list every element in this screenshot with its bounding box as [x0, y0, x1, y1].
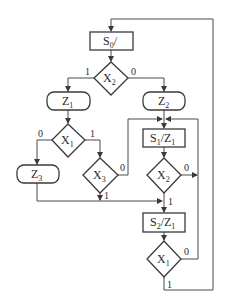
- cond-output-z1: Z1: [47, 92, 90, 110]
- decision-x2-mid: X2 0 1: [147, 158, 189, 207]
- x1-0-to-z3-line: [37, 140, 52, 164]
- x1-bottom-label-0: 0: [184, 246, 189, 257]
- x1-bottom-label-1: 1: [167, 279, 172, 290]
- cond-output-z3: Z3: [17, 165, 59, 183]
- decision-x1-bottom: X1 0 1: [147, 241, 189, 290]
- state-s1: S1/Z1: [143, 129, 185, 147]
- x3-label-0: 0: [120, 162, 125, 173]
- x2-mid-label-0: 0: [184, 162, 189, 173]
- x1-1-to-x3-line: [85, 140, 100, 157]
- s0-name: S: [103, 34, 110, 48]
- cond-output-z2: Z2: [143, 92, 185, 110]
- x2-mid-label-1: 1: [168, 196, 173, 207]
- asm-flowchart: S0/ X2 1 0 Z1 Z2 X1 0 1 Z3 X3 0 1 S1/Z1: [0, 0, 226, 308]
- x2-top-label-1: 1: [85, 66, 90, 77]
- state-s2: S2/Z1: [143, 213, 185, 232]
- x2-0-to-z2-line: [128, 78, 164, 91]
- x1-left-label-0: 0: [38, 128, 43, 139]
- decision-x3: X3 0 1: [83, 158, 125, 201]
- state-s0: S0/: [90, 32, 133, 50]
- x3-label-1: 1: [104, 190, 109, 201]
- x1-left-label-1: 1: [90, 128, 95, 139]
- x2-1-to-z1-line: [68, 78, 94, 91]
- x2-top-label-0: 0: [131, 66, 136, 77]
